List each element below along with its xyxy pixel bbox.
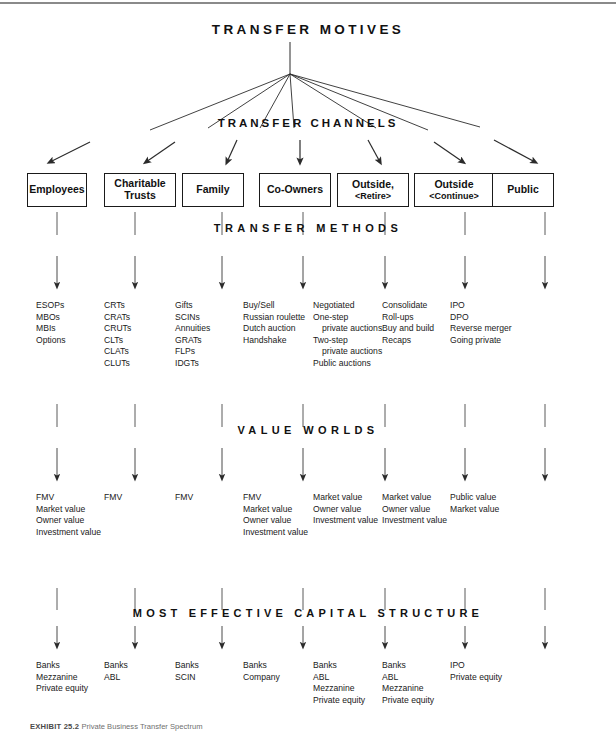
channel-box-label-line1: Employees [29, 184, 84, 196]
exhibit-caption: EXHIBIT 25.2 Private Business Transfer S… [30, 722, 203, 731]
transfer-method-item: IPO [450, 300, 512, 312]
channel-box-label-line2: Trusts [124, 190, 156, 202]
channel-box-label-line1: Outside, [352, 179, 394, 191]
channel-box[interactable]: Employees [27, 173, 87, 207]
capital-item-item: IPO [450, 660, 502, 672]
value-world-item: FMV [104, 492, 122, 504]
channel-box[interactable]: Public [492, 173, 554, 207]
value-world-item: Public value [450, 492, 499, 504]
channel-box-label-line1: Family [196, 184, 229, 196]
value-world-column: FMVMarket valueOwner valueInvestment val… [36, 492, 101, 538]
transfer-method-item: IDGTs [175, 358, 210, 370]
capital-item-column: IPOPrivate equity [450, 660, 502, 683]
value-world-item: Investment value [313, 515, 378, 527]
capital-item-column: BanksABLMezzaninePrivate equity [313, 660, 365, 706]
capital-item-column: BanksMezzaninePrivate equity [36, 660, 88, 695]
transfer-method-item: CLTs [104, 335, 131, 347]
capital-item-item: Banks [36, 660, 88, 672]
value-world-item: Investment value [382, 515, 447, 527]
value-world-item: Owner value [243, 515, 308, 527]
band-title-capital-structure: MOST EFFECTIVE CAPITAL STRUCTURE [0, 607, 616, 619]
value-world-item: Market value [313, 492, 378, 504]
capital-item-item: Private equity [382, 695, 434, 707]
value-world-item: FMV [243, 492, 308, 504]
capital-item-item: Company [243, 672, 280, 684]
transfer-method-column: GiftsSCINsAnnuitiesGRATsFLPsIDGTs [175, 300, 210, 370]
capital-item-item: Private equity [313, 695, 365, 707]
transfer-method-item: Reverse merger [450, 323, 512, 335]
capital-item-item: Mezzanine [313, 683, 365, 695]
channel-box[interactable]: Co-Owners [259, 173, 331, 207]
capital-item-item: Mezzanine [382, 683, 434, 695]
capital-item-column: BanksABL [104, 660, 128, 683]
capital-item-item: Private equity [36, 683, 88, 695]
transfer-method-item: CRUTs [104, 323, 131, 335]
diagram-page: TRANSFER MOTIVES TRANSFER CHANNELS TRANS… [0, 0, 616, 735]
transfer-method-item: Buy/Sell [243, 300, 305, 312]
transfer-method-item: MBIs [36, 323, 66, 335]
transfer-method-column: CRTsCRATsCRUTsCLTsCLATsCLUTs [104, 300, 131, 370]
transfer-method-item: Recaps [382, 335, 434, 347]
transfer-method-item: CLUTs [104, 358, 131, 370]
transfer-method-item: MBOs [36, 312, 66, 324]
transfer-method-item: Negotiated [313, 300, 382, 312]
value-world-column: FMVMarket valueOwner valueInvestment val… [243, 492, 308, 538]
capital-item-column: BanksCompany [243, 660, 280, 683]
capital-item-column: BanksABLMezzaninePrivate equity [382, 660, 434, 706]
transfer-method-item: Public auctions [313, 358, 382, 370]
capital-item-item: Banks [104, 660, 128, 672]
channel-box[interactable]: Family [182, 173, 244, 207]
top-rule-divider [0, 2, 616, 4]
band-title-transfer-channels: TRANSFER CHANNELS [0, 117, 616, 129]
value-world-column: FMV [175, 492, 193, 504]
channel-box[interactable]: CharitableTrusts [104, 173, 176, 207]
transfer-method-item: private auctions [313, 346, 382, 358]
channel-box-label-line1: Outside [434, 179, 473, 191]
exhibit-caption-text: Private Business Transfer Spectrum [81, 722, 202, 731]
channel-box[interactable]: Outside,<Retire> [337, 173, 409, 207]
channel-box-label-line1: Public [507, 184, 539, 196]
value-world-item: Owner value [382, 504, 447, 516]
transfer-method-item: Russian roulette [243, 312, 305, 324]
capital-item-item: Banks [243, 660, 280, 672]
value-world-item: Market value [382, 492, 447, 504]
value-world-item: Market value [243, 504, 308, 516]
transfer-method-item: SCINs [175, 312, 210, 324]
channel-box[interactable]: Outside<Continue> [414, 173, 494, 207]
transfer-method-item: Roll-ups [382, 312, 434, 324]
value-world-item: Investment value [243, 527, 308, 539]
transfer-method-item: CRTs [104, 300, 131, 312]
value-world-item: Market value [450, 504, 499, 516]
transfer-method-item: Handshake [243, 335, 305, 347]
transfer-method-item: Dutch auction [243, 323, 305, 335]
transfer-method-item: Consolidate [382, 300, 434, 312]
transfer-method-column: ConsolidateRoll-upsBuy and buildRecaps [382, 300, 434, 346]
channel-box-label-line2: <Retire> [355, 191, 391, 201]
capital-item-item: Mezzanine [36, 672, 88, 684]
capital-item-item: ABL [382, 672, 434, 684]
transfer-method-item: Annuities [175, 323, 210, 335]
transfer-method-item: private auctions [313, 323, 382, 335]
band-title-transfer-motives: TRANSFER MOTIVES [0, 22, 616, 37]
transfer-method-item: One-step [313, 312, 382, 324]
value-world-item: FMV [175, 492, 193, 504]
exhibit-caption-label: EXHIBIT 25.2 [30, 722, 79, 731]
transfer-method-item: CLATs [104, 346, 131, 358]
channel-box-label-line2: <Continue> [429, 191, 479, 201]
transfer-method-item: DPO [450, 312, 512, 324]
value-world-column: Market valueOwner valueInvestment value [382, 492, 447, 527]
connector-layer [0, 0, 616, 735]
band-title-transfer-methods: TRANSFER METHODS [0, 222, 616, 234]
transfer-method-item: CRATs [104, 312, 131, 324]
value-world-column: Public valueMarket value [450, 492, 499, 515]
channel-box-label-line1: Co-Owners [267, 184, 323, 196]
capital-item-item: Banks [313, 660, 365, 672]
capital-item-item: ABL [104, 672, 128, 684]
transfer-method-column: ESOPsMBOsMBIsOptions [36, 300, 66, 346]
transfer-method-item: GRATs [175, 335, 210, 347]
transfer-method-item: Two-step [313, 335, 382, 347]
transfer-method-item: Options [36, 335, 66, 347]
value-world-column: Market valueOwner valueInvestment value [313, 492, 378, 527]
capital-item-item: Private equity [450, 672, 502, 684]
capital-item-column: BanksSCIN [175, 660, 199, 683]
